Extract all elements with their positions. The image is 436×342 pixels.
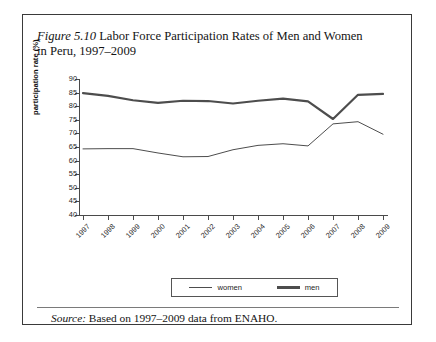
y-tick-label: 60: [51, 157, 77, 164]
y-tick-label: 65: [51, 143, 77, 150]
x-tick-label: 1998: [99, 222, 117, 240]
series-line-women: [83, 122, 383, 157]
y-axis-title: participation rate (%): [31, 39, 40, 115]
legend-label-women: women: [217, 283, 241, 292]
y-tick-label: 80: [51, 102, 77, 109]
x-tick-label: 2000: [149, 222, 167, 240]
legend-item-women: women: [189, 283, 241, 292]
y-tick-label: 50: [51, 184, 77, 191]
x-tick-label: 2003: [224, 222, 242, 240]
x-tick-label: 2004: [249, 222, 267, 240]
plot-frame: 4045505560657075808590 19971998199920002…: [79, 79, 387, 215]
figure-number: Figure 5.10: [37, 29, 96, 43]
x-tick-label: 2007: [324, 222, 342, 240]
legend-item-men: men: [277, 283, 320, 292]
x-tick-label: 2005: [274, 222, 292, 240]
y-tick-label: 85: [51, 89, 77, 96]
x-tick-label: 1997: [74, 222, 92, 240]
y-tick-label: 70: [51, 129, 77, 136]
y-tick-label: 75: [51, 116, 77, 123]
chart-plot-area: participation rate (%) 40455055606570758…: [23, 75, 413, 265]
series-line-men: [83, 93, 383, 119]
chart-legend: women men: [171, 278, 338, 297]
source-label: Source:: [51, 312, 86, 324]
x-tick-label: 2008: [349, 222, 367, 240]
source-divider: [37, 307, 399, 308]
x-tick-label: 1999: [124, 222, 142, 240]
x-tick-label: 2009: [374, 222, 392, 240]
legend-line-women-icon: [189, 287, 212, 288]
source-text: Based on 1997–2009 data from ENAHO.: [86, 312, 277, 324]
y-tick-label: 40: [51, 211, 77, 218]
figure-container: Figure 5.10 Labor Force Participation Ra…: [22, 14, 412, 325]
chart-series-lines: [79, 79, 388, 219]
y-tick-label: 90: [51, 75, 77, 82]
legend-line-men-icon: [277, 286, 300, 288]
x-tick-label: 2006: [299, 222, 317, 240]
x-tick-label: 2001: [174, 222, 192, 240]
y-tick-label: 55: [51, 170, 77, 177]
figure-caption: Figure 5.10 Labor Force Participation Ra…: [37, 29, 367, 59]
y-tick-label: 45: [51, 197, 77, 204]
source-note: Source: Based on 1997–2009 data from ENA…: [51, 312, 277, 324]
x-tick-label: 2002: [199, 222, 217, 240]
legend-label-men: men: [305, 283, 320, 292]
